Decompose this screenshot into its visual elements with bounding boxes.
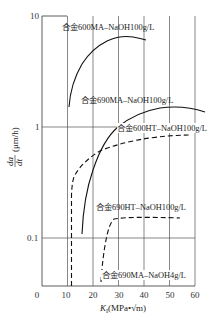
chart: 10 1 0.1 0 10 20 30 40 50 60 KI(MPa•√m) … [0,0,219,315]
x-tick-20: 20 [89,290,99,300]
x-axis-label: KI(MPa•√m) [99,303,146,314]
x-tick-40: 40 [140,290,150,300]
x-tick-60: 60 [191,290,201,300]
series-lines [69,37,205,286]
y-label-denominator: dt [14,159,24,167]
label-690ht-naoh100: 合金690HT–NaOH100g/L [96,202,186,212]
svg-text:KI(MPa•√m): KI(MPa•√m) [99,303,146,314]
x-tick-0: 0 [35,290,40,300]
y-tick-10: 10 [30,11,40,21]
x-axis-ticks: 0 10 20 30 40 50 60 [35,290,200,300]
y-axis-ticks: 10 1 0.1 [27,11,40,243]
label-600ht-naoh100: 合金600HT–NaOH100g/L [117,123,207,133]
y-tick-1: 1 [35,122,40,132]
label-690ma-naoh4: 合金690MA–NaOH4g/L [102,270,186,280]
vertical-gridlines [68,16,196,286]
y-label-unit: (μm/h) [10,127,20,152]
x-tick-50: 50 [166,290,176,300]
y-tick-0.1: 0.1 [27,233,38,243]
label-690ma-naoh100: 合金690MA–NaOH100g/L [81,95,173,105]
x-tick-30: 30 [115,290,125,300]
label-600ma-naoh100: 合金600MA–NaOH100g/L [62,22,154,32]
x-tick-10: 10 [62,290,72,300]
y-axis-label: da dt (μm/h) [5,127,24,167]
x-label-unit: (MPa•√m) [108,303,146,313]
